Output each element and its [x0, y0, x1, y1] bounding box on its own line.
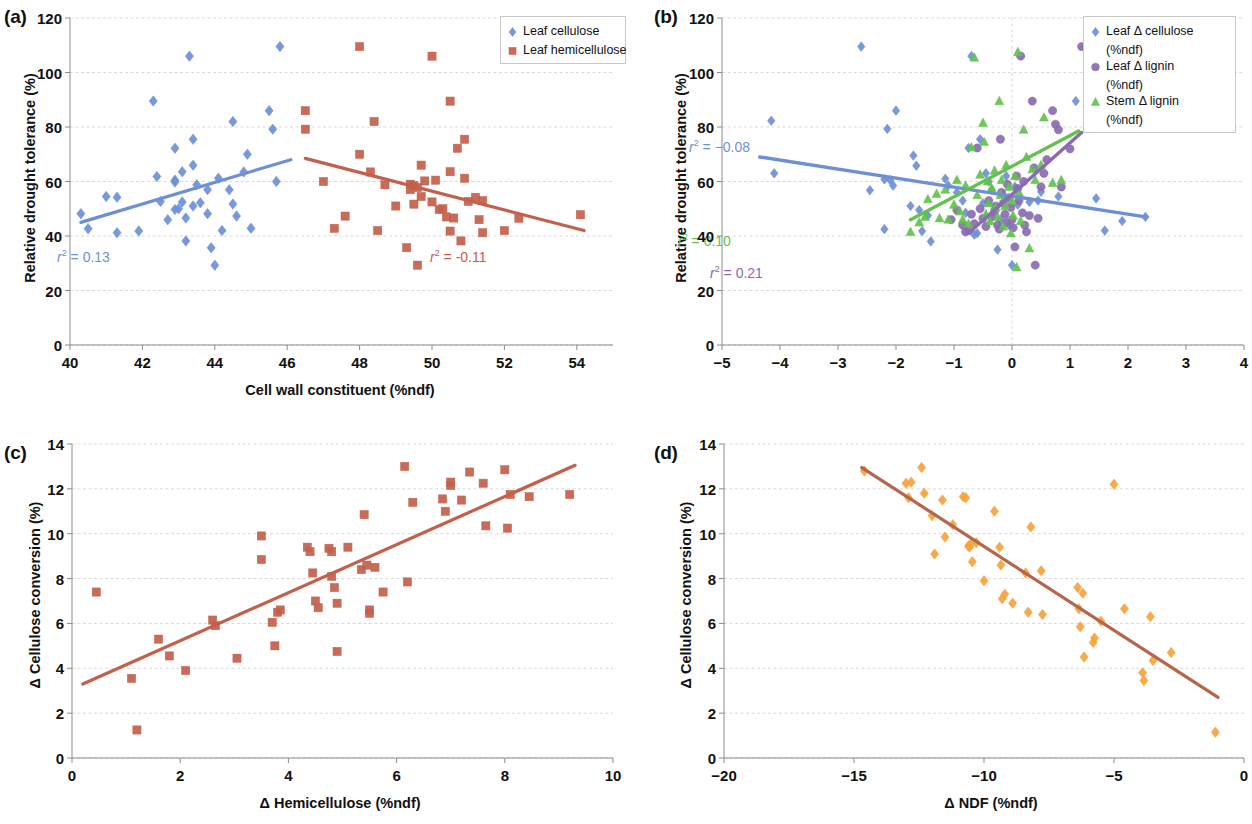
x-tick-label: 2: [176, 767, 184, 784]
data-point: [1146, 611, 1154, 622]
legend-label: Leaf cellulose: [523, 24, 599, 38]
data-point: [428, 52, 436, 60]
x-tick-label: 0: [1008, 354, 1016, 371]
data-point: [997, 560, 1005, 571]
panel-b-legend: Leaf Δ cellulose(%ndf)Leaf Δ lignin(%ndf…: [1083, 16, 1236, 133]
data-point: [920, 488, 928, 499]
legend-item[interactable]: Leaf hemicellulose: [506, 43, 618, 58]
legend-item[interactable]: Leaf cellulose: [506, 24, 618, 39]
data-point: [1028, 97, 1036, 105]
x-tick-label: 46: [279, 354, 296, 371]
data-point: [479, 229, 487, 237]
panel-a: (a) Relative drought tolerance (%) Cell …: [0, 0, 626, 412]
x-tick-label: 8: [501, 767, 509, 784]
data-point: [154, 635, 162, 643]
data-point: [938, 495, 946, 506]
data-point: [1101, 226, 1109, 236]
data-point: [1037, 183, 1045, 191]
data-point: [959, 196, 967, 206]
data-point: [92, 588, 100, 596]
data-point: [182, 236, 190, 247]
x-tick-label: 3: [1182, 354, 1190, 371]
data-point: [441, 507, 449, 515]
legend-label: Leaf Δ lignin: [1106, 59, 1174, 73]
circle-marker-icon: [1089, 60, 1102, 74]
data-point: [980, 576, 988, 587]
data-point: [1009, 598, 1017, 609]
legend-item[interactable]: Leaf Δ cellulose: [1089, 24, 1228, 39]
data-point: [401, 462, 409, 470]
data-point: [265, 105, 273, 116]
data-point: [566, 490, 574, 498]
data-point: [333, 599, 341, 607]
legend-item[interactable]: Leaf Δ lignin: [1089, 59, 1228, 74]
data-point: [379, 588, 387, 596]
data-point: [1120, 604, 1128, 615]
data-point: [1118, 216, 1126, 226]
data-point: [84, 223, 92, 234]
data-point: [381, 181, 389, 189]
data-point: [333, 647, 341, 655]
data-point: [363, 561, 371, 569]
legend-label: Leaf Δ cellulose: [1106, 24, 1194, 38]
y-tick-label: 80: [674, 119, 714, 136]
data-point: [438, 495, 446, 503]
x-tick-label: −10: [971, 767, 996, 784]
diamond-marker-icon: [506, 25, 519, 39]
data-point: [403, 578, 411, 586]
legend-label: Leaf hemicellulose: [523, 43, 627, 57]
x-tick-label: 0: [68, 767, 76, 784]
figure-root: (a) Relative drought tolerance (%) Cell …: [0, 0, 1252, 824]
legend-item[interactable]: Stem Δ lignin: [1089, 94, 1228, 109]
data-point: [189, 160, 197, 171]
data-point: [501, 466, 509, 474]
y-tick-label: 40: [22, 228, 62, 245]
data-point: [356, 150, 364, 158]
data-point: [171, 143, 179, 154]
trendline: [862, 468, 1218, 698]
data-point: [271, 642, 279, 650]
data-point: [232, 211, 240, 222]
x-tick-label: 42: [134, 354, 151, 371]
data-point: [1092, 194, 1100, 204]
data-point: [906, 227, 915, 235]
y-tick-label: 2: [676, 705, 716, 722]
data-point: [979, 118, 988, 126]
x-tick-label: 4: [284, 767, 292, 784]
data-point: [453, 144, 461, 152]
y-tick-label: 0: [676, 750, 716, 767]
y-tick-label: 14: [24, 436, 64, 453]
data-point: [907, 201, 915, 211]
data-point: [1055, 192, 1063, 202]
r-squared-annotation: r2 = 0.21: [710, 264, 763, 281]
x-tick-label: −4: [771, 354, 788, 371]
legend-sublabel: (%ndf): [1089, 78, 1228, 92]
data-point: [1057, 175, 1066, 183]
panel-d: (d) Δ Cellulose conversion (%) Δ NDF (%n…: [626, 412, 1252, 824]
data-point: [135, 226, 143, 237]
data-point: [1072, 96, 1080, 106]
data-point: [447, 481, 455, 489]
data-point: [410, 200, 418, 208]
data-point: [189, 134, 197, 145]
data-point: [417, 161, 425, 169]
data-point: [301, 107, 309, 115]
y-tick-label: 2: [24, 705, 64, 722]
panel-c: (c) Δ Cellulose conversion (%) Δ Hemicel…: [0, 412, 626, 824]
y-tick-label: 120: [22, 10, 62, 27]
data-point: [881, 224, 889, 234]
data-point: [306, 548, 314, 556]
data-point: [328, 548, 336, 556]
y-tick-label: 20: [674, 282, 714, 299]
data-point: [475, 216, 483, 224]
data-point: [417, 192, 425, 200]
r-squared-annotation: r2 = 0.13: [57, 248, 110, 265]
series-square: [301, 43, 584, 270]
data-point: [525, 493, 533, 501]
data-point: [910, 151, 918, 161]
data-point: [225, 184, 233, 195]
data-point: [1034, 214, 1042, 222]
data-point: [446, 227, 454, 235]
data-point: [509, 27, 516, 36]
data-point: [1167, 647, 1175, 658]
